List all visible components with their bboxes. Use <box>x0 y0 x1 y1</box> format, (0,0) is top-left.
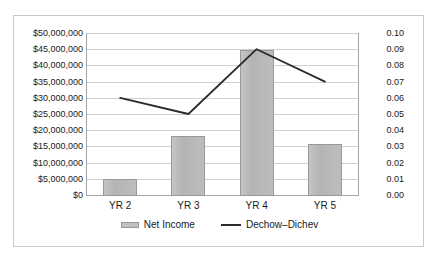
y-axis-tick-label-left: $5,000,000 <box>15 174 83 184</box>
y-axis-tick-label-left: $45,000,000 <box>15 44 83 54</box>
bar-slot <box>291 33 359 196</box>
y-axis-tick-label-left: $35,000,000 <box>15 77 83 87</box>
y-axis-tick-label-left: $0 <box>15 190 83 200</box>
y-axis-tick-label-right: 0.09 <box>364 44 404 54</box>
y-axis-tick-label-left: $10,000,000 <box>15 158 83 168</box>
x-axis-tick-label: YR 4 <box>223 199 291 215</box>
legend-bar-swatch-icon <box>121 222 139 228</box>
bar-series-net-income <box>86 33 359 196</box>
y-axis-tick-label-right: 0.02 <box>364 158 404 168</box>
bar <box>240 50 274 196</box>
legend-label: Dechow–Dichev <box>246 219 318 230</box>
bar <box>171 136 205 196</box>
y-axis-tick-label-left: $15,000,000 <box>15 141 83 151</box>
bar <box>103 179 137 196</box>
y-axis-tick-label-right: 0.08 <box>364 60 404 70</box>
chart-legend: Net IncomeDechow–Dichev <box>14 219 425 230</box>
y-axis-tick-label-right: 0.07 <box>364 77 404 87</box>
legend-line-swatch-icon <box>221 224 241 226</box>
bar-slot <box>223 33 291 196</box>
y-axis-tick-label-right: 0.05 <box>364 109 404 119</box>
y-axis-tick-label-left: $20,000,000 <box>15 125 83 135</box>
chart-frame: $50,000,000$45,000,000$40,000,000$35,000… <box>13 15 424 247</box>
left-y-axis: $50,000,000$45,000,000$40,000,000$35,000… <box>14 33 83 196</box>
y-axis-tick-label-right: 0.01 <box>364 174 404 184</box>
legend-label: Net Income <box>144 219 195 230</box>
right-y-axis: 0.100.090.080.070.060.050.040.030.020.01… <box>364 33 406 196</box>
y-axis-tick-label-left: $50,000,000 <box>15 28 83 38</box>
y-axis-tick-label-left: $25,000,000 <box>15 109 83 119</box>
y-axis-tick-label-right: 0.10 <box>364 28 404 38</box>
bar <box>308 144 342 196</box>
bar-slot <box>154 33 222 196</box>
y-axis-tick-label-right: 0.03 <box>364 141 404 151</box>
y-axis-tick-label-left: $40,000,000 <box>15 60 83 70</box>
legend-item[interactable]: Dechow–Dichev <box>221 219 318 230</box>
y-axis-tick-label-right: 0.06 <box>364 93 404 103</box>
legend-item[interactable]: Net Income <box>121 219 195 230</box>
bar-slot <box>86 33 154 196</box>
x-axis-tick-label: YR 2 <box>86 199 154 215</box>
y-axis-tick-label-right: 0.00 <box>364 190 404 200</box>
y-axis-tick-label-right: 0.04 <box>364 125 404 135</box>
x-axis: YR 2YR 3YR 4YR 5 <box>86 199 359 215</box>
x-axis-tick-label: YR 5 <box>291 199 359 215</box>
y-axis-tick-label-left: $30,000,000 <box>15 93 83 103</box>
chart-plot-wrapper: $50,000,000$45,000,000$40,000,000$35,000… <box>14 16 425 248</box>
x-axis-tick-label: YR 3 <box>154 199 222 215</box>
